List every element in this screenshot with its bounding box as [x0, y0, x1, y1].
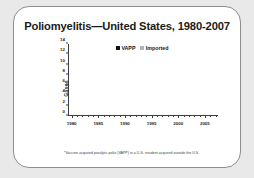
- plot-area: 02468101214 198019851990199520002005: [68, 44, 218, 116]
- x-axis-tick-mark: [72, 115, 73, 118]
- x-axis-minor-tick-mark: [210, 115, 211, 117]
- x-axis-tick-label: 1995: [147, 121, 157, 126]
- y-axis-tick-mark: [66, 84, 68, 85]
- x-axis-tick-mark: [98, 115, 99, 118]
- x-axis-minor-tick-mark: [120, 115, 121, 117]
- y-axis-tick-label: 10: [60, 57, 65, 62]
- plot-wrapper: Cases 02468101214 1980198519901995200020…: [68, 44, 218, 116]
- y-axis-tick-label: 4: [63, 88, 65, 93]
- x-axis-minor-tick-mark: [189, 115, 190, 117]
- y-axis-tick-mark: [66, 43, 68, 44]
- x-axis-minor-tick-mark: [136, 115, 137, 117]
- x-axis-minor-tick-mark: [82, 115, 83, 117]
- x-axis-line: [68, 115, 218, 116]
- x-axis-tick-label: 2005: [200, 121, 210, 126]
- x-axis-tick-label: 1980: [67, 121, 77, 126]
- bar-slot: [213, 44, 218, 115]
- y-axis-tick-label: 6: [63, 78, 65, 83]
- y-axis-tick-mark: [66, 94, 68, 95]
- x-axis-minor-tick-mark: [194, 115, 195, 117]
- slide-card: Poliomyelitis—United States, 1980-2007 V…: [13, 6, 241, 168]
- x-axis-minor-tick-mark: [216, 115, 217, 117]
- x-axis-minor-tick-mark: [104, 115, 105, 117]
- y-axis-tick-label: 8: [63, 67, 65, 72]
- x-axis-minor-tick-mark: [184, 115, 185, 117]
- y-axis-tick-mark: [66, 63, 68, 64]
- bar-series-group: 198019851990199520002005: [69, 44, 218, 115]
- x-axis-minor-tick-mark: [162, 115, 163, 117]
- x-axis-minor-tick-mark: [141, 115, 142, 117]
- x-axis-minor-tick-mark: [114, 115, 115, 117]
- x-axis-tick-label: 1990: [120, 121, 130, 126]
- x-axis-minor-tick-mark: [168, 115, 169, 117]
- x-axis-minor-tick-mark: [157, 115, 158, 117]
- x-axis-tick-mark: [125, 115, 126, 118]
- x-axis-minor-tick-mark: [77, 115, 78, 117]
- y-axis-tick-label: 12: [60, 47, 65, 52]
- chart-footnote: *Vaccine-acquired paralytic polio (VAPP)…: [64, 151, 216, 157]
- x-axis-tick-label: 2000: [173, 121, 183, 126]
- y-axis-tick-label: 2: [63, 98, 65, 103]
- y-axis-tick-mark: [66, 115, 68, 116]
- x-axis-minor-tick-mark: [146, 115, 147, 117]
- x-axis-tick-label: 1985: [93, 121, 103, 126]
- x-axis-tick-mark: [152, 115, 153, 118]
- x-axis-minor-tick-mark: [200, 115, 201, 117]
- y-axis-tick-mark: [66, 73, 68, 74]
- x-axis-minor-tick-mark: [130, 115, 131, 117]
- page-title: Poliomyelitis—United States, 1980-2007: [14, 20, 240, 32]
- y-axis-tick-mark: [66, 53, 68, 54]
- x-axis-minor-tick-mark: [93, 115, 94, 117]
- x-axis-minor-tick-mark: [88, 115, 89, 117]
- polio-cases-bar-chart: VAPP Imported Cases 02468101214 19801985…: [42, 40, 220, 136]
- x-axis-tick-mark: [205, 115, 206, 118]
- x-axis-minor-tick-mark: [173, 115, 174, 117]
- x-axis-tick-mark: [178, 115, 179, 118]
- y-axis-tick-mark: [66, 104, 68, 105]
- y-axis-tick-label: 14: [60, 37, 65, 42]
- x-axis-minor-tick-mark: [109, 115, 110, 117]
- y-axis-tick-label: 0: [63, 109, 65, 114]
